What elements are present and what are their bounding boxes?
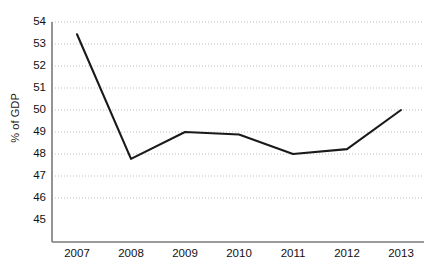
x-tick-label: 2010 (216, 247, 262, 259)
data-line-series (77, 34, 401, 159)
gridlines (52, 22, 424, 198)
x-tick-label: 2007 (54, 247, 100, 259)
line-chart: % of GDP 54 53 52 51 50 49 48 47 46 45 2… (0, 0, 430, 274)
x-tick-label: 2012 (324, 247, 370, 259)
x-tick-label: 2008 (108, 247, 154, 259)
plot-area (0, 0, 430, 274)
x-tick-label: 2013 (378, 247, 424, 259)
x-tick-label: 2011 (270, 247, 316, 259)
x-tick-label: 2009 (162, 247, 208, 259)
